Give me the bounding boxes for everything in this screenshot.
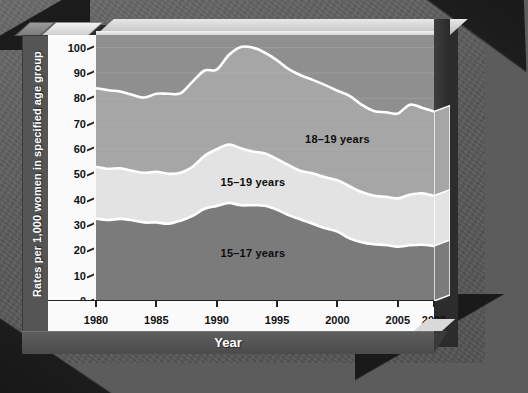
y-tick-label: 30 bbox=[74, 220, 86, 231]
y-tick-label: 70 bbox=[74, 118, 86, 129]
y-tick-label: 60 bbox=[74, 144, 86, 155]
y-tick-mark bbox=[87, 223, 94, 228]
y-tick-label: 40 bbox=[74, 194, 86, 205]
y-tick-label: 80 bbox=[74, 93, 86, 104]
stacked-area-svg bbox=[96, 35, 434, 301]
y-tick-mark bbox=[87, 45, 94, 50]
x-axis-tick-strip: 1980198519901995200020052008 bbox=[48, 301, 434, 331]
year-bar-right-face-3d bbox=[434, 331, 448, 353]
series-annotation-15-17: 15–17 years bbox=[221, 247, 286, 259]
y-tick-mark bbox=[87, 197, 94, 202]
y-tick-mark bbox=[87, 172, 94, 177]
x-tick-label: 1995 bbox=[265, 314, 289, 326]
x-tick-label: 1980 bbox=[84, 314, 108, 326]
y-tick-mark bbox=[87, 147, 94, 152]
x-tick-mark bbox=[276, 301, 278, 307]
y-tick-mark bbox=[87, 273, 94, 278]
side-face-band-15-17 bbox=[434, 240, 450, 301]
plot-right-face-bands bbox=[434, 35, 450, 301]
series-annotation-15-19: 15–19 years bbox=[221, 176, 286, 188]
chart-figure: Rates per 1,000 women in specified age g… bbox=[22, 13, 468, 350]
side-face-band-18-19 bbox=[434, 106, 450, 196]
x-tick-label: 1985 bbox=[144, 314, 168, 326]
y-tick-mark bbox=[87, 96, 94, 101]
y-tick-label: 90 bbox=[74, 68, 86, 79]
y-tick-label: 100 bbox=[68, 42, 86, 53]
y-axis-tick-strip: 0102030405060708090100 bbox=[48, 35, 96, 331]
y-axis-title-panel: Rates per 1,000 women in specified age g… bbox=[22, 35, 50, 333]
x-axis-title-bar: Year bbox=[22, 331, 434, 354]
side-face-band-15-19 bbox=[434, 190, 450, 246]
y-tick-label: 50 bbox=[74, 169, 86, 180]
x-tick-mark bbox=[336, 301, 338, 307]
plot-area bbox=[96, 35, 434, 301]
x-tick-label: 2005 bbox=[386, 314, 410, 326]
x-tick-label: 2000 bbox=[325, 314, 349, 326]
y-tick-label: 10 bbox=[74, 270, 86, 281]
x-tick-mark bbox=[216, 301, 218, 307]
series-annotation-18-19: 18–19 years bbox=[305, 133, 370, 145]
x-tick-label: 1990 bbox=[204, 314, 228, 326]
x-tick-mark bbox=[155, 301, 157, 307]
plot-top-border bbox=[96, 31, 434, 35]
x-axis-title: Year bbox=[22, 332, 434, 354]
y-axis-title: Rates per 1,000 women in specified age g… bbox=[31, 35, 43, 324]
y-tick-mark bbox=[87, 248, 94, 253]
x-tick-mark bbox=[433, 301, 435, 307]
y-tick-mark bbox=[87, 71, 94, 76]
x-tick-mark bbox=[397, 301, 399, 307]
y-tick-mark bbox=[87, 121, 94, 126]
y-tick-label: 20 bbox=[74, 245, 86, 256]
x-tick-mark bbox=[95, 301, 97, 307]
